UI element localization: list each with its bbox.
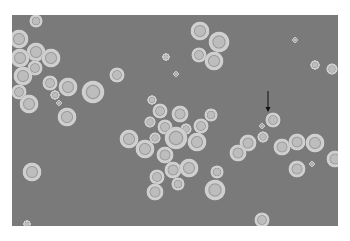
arrow-indicator-icon	[0, 0, 350, 241]
